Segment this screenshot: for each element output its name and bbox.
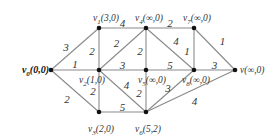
edge-weight-v7-v8: 1 [184,45,190,57]
node-v3 [97,110,102,115]
graph-svg: 31224232452245211334 v0(0,0)v1(3,0)v2(1,… [0,0,278,137]
edge-weight-v2-v3: 2 [90,85,96,97]
edge-weight-v3-v6: 5 [120,101,126,113]
node-v8 [192,68,197,73]
edge-weight-v7-v: 1 [220,35,226,47]
node-label-v4: v4(∞,0) [135,13,163,26]
edge-weight-v5-v8: 5 [167,59,173,71]
edge-weight-v0-v2: 1 [72,58,78,70]
edge-weight-v2-v4: 2 [114,37,120,49]
node-v [233,68,238,73]
node-v5 [144,68,149,73]
node-v7 [192,26,197,31]
edge-weights-layer: 31224232452245211334 [62,17,225,113]
edge-weight-v2-v5: 3 [119,59,126,71]
node-v6 [144,110,149,115]
edge-weight-v1-v4: 4 [120,17,126,29]
edge-weight-v6-v: 4 [192,95,198,107]
node-label-v5: v5(∞,0) [138,75,166,88]
node-label-v6: v6(5,2) [135,124,161,137]
node-label-v7: v7(∞,0) [183,13,211,26]
node-v0 [49,68,54,73]
graph-diagram: 31224232452245211334 v0(0,0)v1(3,0)v2(1,… [0,0,278,137]
node-label-v3: v3(2,0) [88,124,114,137]
edge-weight-v5-v6: 2 [136,87,142,99]
edge-weight-v4-v5: 2 [137,45,143,57]
node-label-v0: v0(0,0) [22,64,49,78]
node-labels-layer: v0(0,0)v1(3,0)v2(1,0)v3(2,0)v4(∞,0)v5(∞,… [22,13,265,137]
node-label-v8: v8(∞,0) [182,75,210,88]
edge-weight-v0-v1: 3 [62,41,69,53]
node-v1 [97,26,102,31]
edge-weight-v2-v6: 4 [124,79,130,91]
edges-layer [51,28,235,112]
edge-weight-v1-v2: 2 [89,45,95,57]
node-label-v1: v1(3,0) [93,13,119,26]
edge-weight-v8-v: 3 [211,59,218,71]
node-v2 [97,68,102,73]
node-v4 [144,26,149,31]
edge-weight-v0-v3: 2 [64,93,70,105]
edge-weight-v4-v8: 4 [173,35,179,47]
node-label-v: v(∞,0) [240,65,264,76]
edge-weight-v4-v7: 2 [167,17,173,29]
